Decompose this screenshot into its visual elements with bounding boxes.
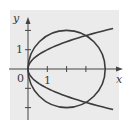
x-tick-label-1: 1 <box>44 74 51 87</box>
x-axis-label: x <box>116 73 123 86</box>
y-tick-label-1: 1 <box>16 43 23 56</box>
x-axis-arrow-icon <box>116 67 123 72</box>
plot-panel <box>10 10 119 120</box>
origin-label: 0 <box>17 72 24 85</box>
y-axis-label: y <box>12 12 20 25</box>
figure: y x 0 1 1 <box>0 0 129 136</box>
